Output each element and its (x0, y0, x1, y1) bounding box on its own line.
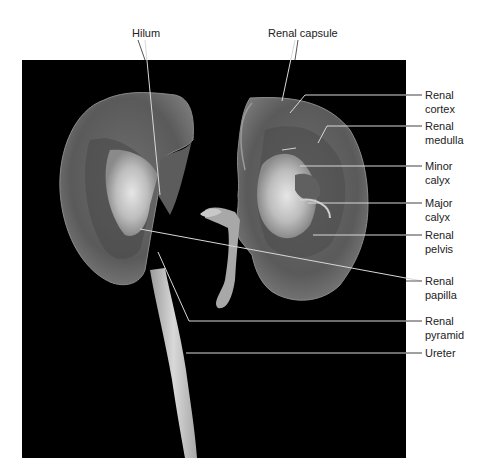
label-renal-papilla: Renal papilla (425, 274, 457, 302)
label-ureter: Ureter (425, 346, 456, 360)
label-renal-cortex: Renal cortex (425, 88, 455, 116)
left-ureter (150, 268, 197, 458)
left-kidney-half (60, 93, 194, 285)
kidney-illustration (0, 0, 487, 476)
leader-renal-capsule (282, 40, 295, 101)
label-major-calyx: Major calyx (425, 196, 453, 224)
label-minor-calyx: Minor calyx (425, 159, 453, 187)
label-renal-pelvis: Renal pelvis (425, 228, 454, 256)
label-renal-medulla: Renal medulla (425, 119, 464, 147)
label-renal-capsule: Renal capsule (268, 26, 338, 40)
label-hilum: Hilum (132, 26, 160, 40)
right-ureter-stump (205, 207, 240, 308)
label-renal-pyramid: Renal pyramid (425, 314, 464, 342)
right-kidney-half (236, 97, 368, 300)
